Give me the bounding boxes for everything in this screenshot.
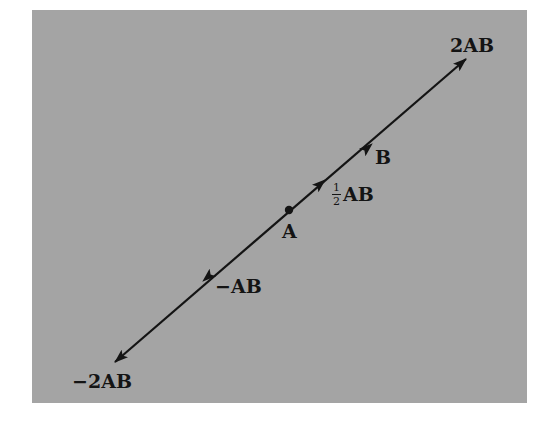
label-half-AB: 1 2 AB xyxy=(332,183,374,208)
fraction-one-half: 1 2 xyxy=(332,182,341,207)
point-A-dot xyxy=(285,206,293,214)
figure-stage: 2AB B 1 2 AB A −AB −2AB xyxy=(0,0,551,423)
label-neg-2AB: −2AB xyxy=(72,372,132,391)
fraction-numerator: 1 xyxy=(332,182,341,195)
label-B: B xyxy=(375,148,391,167)
arrowhead-neg-2AB-icon xyxy=(115,345,135,362)
label-half-AB-text: AB xyxy=(343,183,374,205)
arrowhead-2AB-icon xyxy=(446,59,466,76)
vector-diagram xyxy=(0,0,551,423)
arrowhead-B-icon xyxy=(352,144,372,161)
arrowhead-half-AB-icon xyxy=(305,180,325,197)
label-neg-AB: −AB xyxy=(215,277,262,296)
label-A: A xyxy=(282,222,297,241)
label-2AB: 2AB xyxy=(450,36,494,55)
fraction-denominator: 2 xyxy=(332,195,341,207)
